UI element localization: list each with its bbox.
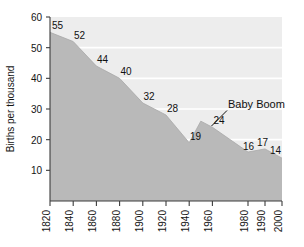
data-label-1840: 52 — [74, 30, 86, 41]
y-axis-title: Births per thousand — [5, 66, 16, 153]
x-tick-label-1990: 1990 — [256, 210, 267, 233]
x-tick-label-1860: 1860 — [87, 210, 98, 233]
y-tick-label-60: 60 — [31, 12, 43, 23]
x-tick-label-1940: 1940 — [180, 210, 191, 233]
data-label-1980: 16 — [243, 141, 255, 152]
x-tick-label-1920: 1920 — [157, 210, 168, 233]
y-tick-label-20: 20 — [31, 135, 43, 146]
x-tick-label-1980: 1980 — [239, 210, 250, 233]
data-label-1960: 24 — [214, 115, 226, 126]
data-label-1990: 17 — [257, 137, 269, 148]
x-tick-label-1900: 1900 — [134, 210, 145, 233]
x-tick-label-1840: 1840 — [64, 210, 75, 233]
y-tick-label-40: 40 — [31, 73, 43, 84]
data-label-1880: 40 — [121, 66, 133, 77]
y-tick-label-30: 30 — [31, 104, 43, 115]
data-label-1920: 28 — [167, 103, 179, 114]
data-label-1820: 55 — [52, 20, 64, 31]
birth-rate-area-chart: 60 50 40 30 20 10 Births per thousand 18… — [0, 0, 304, 247]
x-tick-label-2000: 2000 — [273, 210, 284, 233]
x-tick-label-1960: 1960 — [203, 210, 214, 233]
data-label-1900: 32 — [144, 91, 156, 102]
annotation-baby-boom-label: Baby Boom — [228, 98, 285, 110]
y-tick-label-10: 10 — [31, 165, 43, 176]
x-tick-label-1880: 1880 — [111, 210, 122, 233]
y-tick-label-50: 50 — [31, 43, 43, 54]
data-label-1860: 44 — [97, 54, 109, 65]
data-label-2000: 14 — [270, 145, 282, 156]
data-label-1940: 19 — [190, 131, 202, 142]
x-tick-label-1820: 1820 — [41, 210, 52, 233]
